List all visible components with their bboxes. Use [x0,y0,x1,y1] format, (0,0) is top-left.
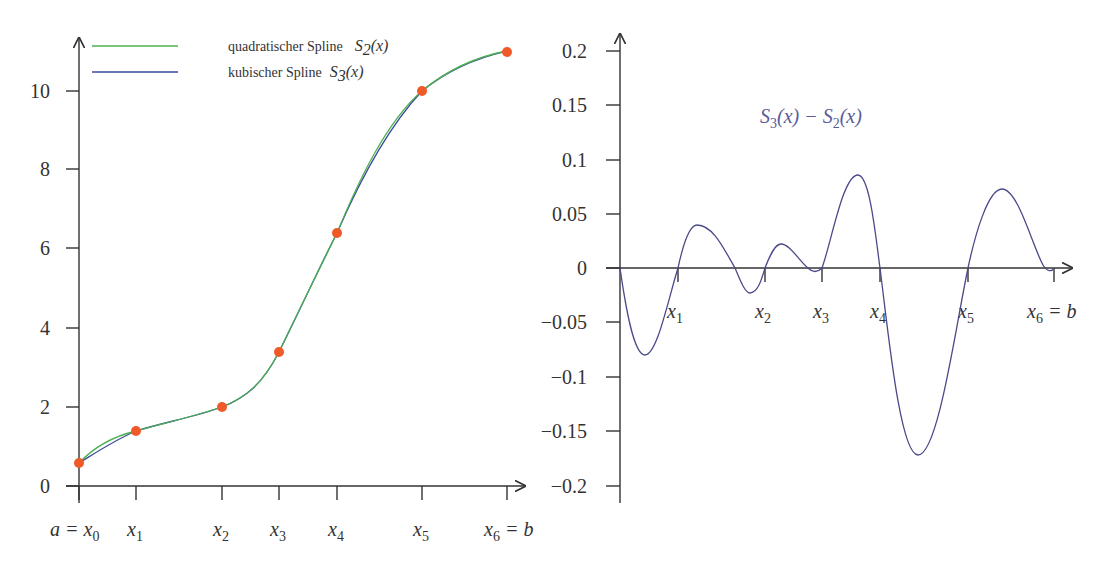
x5-label: x5 [412,518,429,544]
right-y-tick-label: −0.05 [541,311,587,333]
data-point [417,86,427,96]
legend: quadratischer SplineS2(x) kubischer Spli… [92,37,388,84]
right-y-tick-label: −0.2 [551,475,587,497]
x0-label: a = x0 [50,518,99,544]
right-y-tick-label: 0.05 [552,203,587,225]
cubic-spline-curve [79,51,507,463]
x3-label: x3 [269,518,286,544]
left-y-tick-label: 8 [40,158,50,180]
rx4-label: x4 [869,300,886,326]
data-point [217,402,227,412]
right-y-tick-label: 0.15 [552,94,587,116]
x2-label: x2 [212,518,229,544]
left-x-ticks [79,486,507,500]
quadratic-spline-curve [79,51,507,463]
right-y-tick-label: −0.1 [551,366,587,388]
figure: 0 2 4 6 8 10 a = x0 x1 x2 x3 x4 x5 x6 = … [0,0,1114,568]
left-y-tick-label: 4 [40,317,50,339]
left-y-ticks: 0 2 4 6 8 10 [30,80,79,497]
data-points [74,47,512,468]
right-x-labels: x1 x2 x3 x4 x5 x6 = b [666,300,1076,326]
data-point [502,47,512,57]
rx3-label: x3 [812,300,829,326]
right-y-tick-label: −0.15 [541,420,587,442]
rx6-label: x6 = b [1026,300,1076,326]
x4-label: x4 [327,518,344,544]
data-point [74,458,84,468]
right-y-tick-label: 0 [577,257,587,279]
difference-curve [620,175,1054,455]
legend-cubic-label: kubischer SplineS3(x) [228,63,363,84]
left-chart: 0 2 4 6 8 10 a = x0 x1 x2 x3 x4 x5 x6 = … [30,37,533,544]
left-y-tick-label: 10 [30,80,50,102]
data-point [332,228,342,238]
x6-label: x6 = b [483,518,533,544]
left-y-tick-label: 2 [40,396,50,418]
right-x-ticks [678,268,1054,282]
right-y-tick-label: 0.1 [562,149,587,171]
diff-title: S3(x) − S2(x) [760,105,862,131]
left-y-tick-label: 0 [40,475,50,497]
right-y-ticks: 0.2 0.15 0.1 0.05 0 −0.05 −0.1 −0.15 −0.… [541,40,620,497]
legend-quad-label: quadratischer SplineS2(x) [228,37,388,58]
x1-label: x1 [126,518,143,544]
left-y-tick-label: 6 [40,237,50,259]
left-x-labels: a = x0 x1 x2 x3 x4 x5 x6 = b [50,518,533,544]
right-chart: 0.2 0.15 0.1 0.05 0 −0.05 −0.1 −0.15 −0.… [541,34,1077,503]
rx2-label: x2 [754,300,771,326]
data-point [131,426,141,436]
right-y-tick-label: 0.2 [562,40,587,62]
data-point [274,347,284,357]
